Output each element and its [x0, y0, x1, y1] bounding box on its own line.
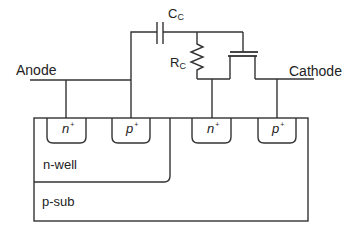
resistor-label: RC — [170, 55, 186, 71]
n-plus-label-2: n+ — [207, 121, 219, 136]
cathode-label: Cathode — [289, 63, 342, 79]
capacitor-label: CC — [168, 6, 184, 22]
mosfet-symbol — [228, 32, 258, 79]
resistor-symbol — [191, 32, 203, 79]
n-plus-label-1: n+ — [62, 121, 74, 136]
anode-p-plus-contact — [131, 32, 157, 118]
p-plus-label-1: p+ — [126, 121, 138, 136]
p-sub-label: p-sub — [42, 194, 75, 209]
n-well-label: n-well — [43, 157, 77, 172]
anode-label: Anode — [16, 62, 56, 78]
p-plus-label-2: p+ — [272, 121, 284, 136]
capacitor-symbol — [157, 22, 163, 44]
